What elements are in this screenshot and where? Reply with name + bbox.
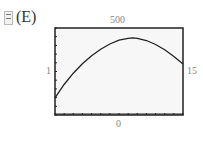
xmin-label: 1 [46, 65, 51, 76]
option-label: (E) [16, 8, 36, 26]
ymin-label: 0 [116, 118, 121, 129]
graph-window [54, 27, 185, 117]
calculator-graph-icon [4, 11, 13, 25]
xmax-label: 15 [187, 65, 197, 76]
ymax-label: 500 [110, 14, 125, 25]
